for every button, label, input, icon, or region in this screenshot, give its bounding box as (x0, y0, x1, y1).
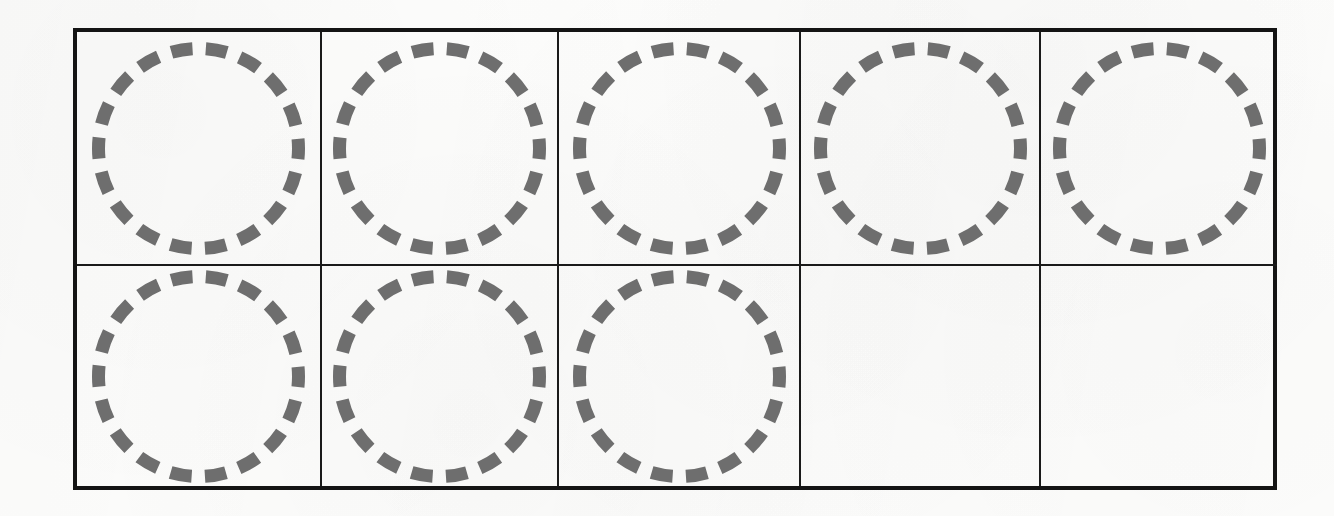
grid-cell-r1c1[interactable] (77, 32, 322, 266)
grid-cell-r1c2[interactable] (322, 32, 559, 266)
circle-outline (340, 48, 540, 248)
circle-outline (579, 48, 779, 248)
dashed-circle-r1c3 (559, 32, 799, 264)
grid-cell-r2c1[interactable] (77, 266, 322, 486)
circle-outline (579, 276, 779, 476)
circle-outline (340, 276, 540, 476)
dashed-circle-r2c2 (322, 266, 557, 486)
grid-cell-r1c3[interactable] (559, 32, 801, 266)
worksheet-page (0, 0, 1334, 516)
dashed-circle-r1c4 (801, 32, 1039, 264)
grid-cell-r2c5[interactable] (1041, 266, 1277, 486)
dashed-circle-r2c1 (77, 266, 320, 486)
dashed-circle-r1c2 (322, 32, 557, 264)
grid-cell-r2c2[interactable] (322, 266, 559, 486)
circle-outline (1059, 48, 1259, 248)
circle-outline (99, 48, 299, 248)
grid-cell-r1c5[interactable] (1041, 32, 1277, 266)
dashed-circle-r2c3 (559, 266, 799, 486)
worksheet-grid-table (73, 28, 1277, 490)
grid-cell-r2c3[interactable] (559, 266, 801, 486)
dashed-circle-r1c1 (77, 32, 320, 264)
grid-cell-r1c4[interactable] (801, 32, 1041, 266)
circle-outline (820, 48, 1020, 248)
dashed-circle-r1c5 (1041, 32, 1277, 264)
grid-cell-r2c4[interactable] (801, 266, 1041, 486)
circle-outline (99, 276, 299, 476)
